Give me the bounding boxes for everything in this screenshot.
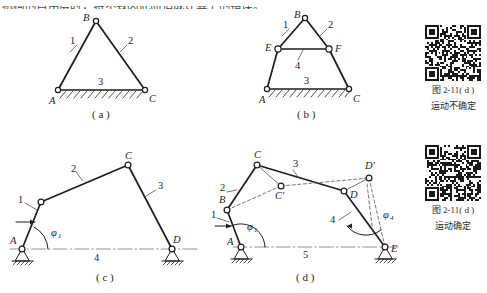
figure-c-leader-1 <box>25 203 37 210</box>
figure-d-joint-A <box>238 244 244 250</box>
figure-c-angle-arc <box>34 227 48 249</box>
figure-a-joint-B <box>93 18 98 23</box>
figure-a-link-2 <box>96 21 145 90</box>
figure-d-joint-Cprime <box>278 183 284 189</box>
figure-d-joint-E <box>382 244 388 250</box>
figure-c-joint-D <box>169 246 175 252</box>
figure-b-leader-2 <box>320 29 327 36</box>
figure-b-leader-1 <box>282 29 289 36</box>
figure-d-number-4: 4 <box>330 214 336 225</box>
figure-b-number-3: 3 <box>304 75 309 86</box>
figure-c-number-2: 2 <box>71 163 76 174</box>
figure-d-label-A: A <box>226 236 234 247</box>
svg-text:φ: φ <box>51 227 57 238</box>
figure-a-leader-1 <box>70 45 77 52</box>
figure-b-label-F: F <box>334 43 342 54</box>
figure-a-label-C: C <box>149 93 157 104</box>
figure-d-joint-D <box>341 188 347 194</box>
figure-a-joint-A <box>55 87 60 92</box>
qr-code-top[interactable] <box>425 25 481 81</box>
figure-a-ground-hatch <box>60 91 143 98</box>
figure-c-label-D: D <box>172 234 181 245</box>
figure-d-joint-C <box>254 162 260 168</box>
figure-c-link-2 <box>41 165 128 202</box>
figure-b-leader-4 <box>298 50 303 60</box>
figure-b-number-4: 4 <box>295 60 301 71</box>
figure-b-joint-F <box>326 46 332 52</box>
page-top-text: 机构的自由度时，将不致因此而造成计算上的错误。 <box>2 0 482 9</box>
figure-d-link-3 <box>257 165 344 191</box>
figure-d-leader-2 <box>227 190 237 192</box>
figure-a-label-B: B <box>83 12 90 23</box>
figure-d-number-3: 3 <box>293 158 298 169</box>
svg-text:1: 1 <box>58 232 61 239</box>
figure-c-leader-3 <box>146 190 156 196</box>
figure-c-link-1 <box>22 202 41 249</box>
figure-c: A C D 1 2 3 4 φ 1 <box>8 148 208 263</box>
figure-b-number-2: 2 <box>328 19 333 30</box>
svg-text:4: 4 <box>390 214 394 221</box>
figure-d-number-5: 5 <box>303 249 308 260</box>
figure-d-leader-1 <box>217 218 229 222</box>
figure-d-joint-B <box>224 207 230 213</box>
figure-c-caption: ( c ) <box>96 271 114 283</box>
figure-c-angle-label-phi1: φ 1 <box>51 227 61 239</box>
figure-d: A B C C' D D' E 1 2 3 4 5 φ 1 φ 4 <box>215 148 405 263</box>
figure-c-number-4: 4 <box>94 252 100 263</box>
figure-d-angle-label-phi1: φ 1 <box>247 221 257 233</box>
figure-b: B E F A C 1 2 3 4 <box>240 10 390 105</box>
figure-d-label-E: E <box>390 243 398 254</box>
figure-a-number-1: 1 <box>70 35 75 46</box>
figure-a-number-2: 2 <box>128 35 133 46</box>
figure-c-leader-2 <box>76 172 83 181</box>
qr-bottom-note: 运动确定 <box>410 219 487 232</box>
figure-b-joint-E <box>275 46 281 52</box>
figure-c-number-1: 1 <box>18 194 23 205</box>
qr-top-figure-ref: 图 2-11( d ) <box>410 83 487 96</box>
figure-c-joint-B <box>38 199 44 205</box>
figure-a-caption: ( a ) <box>92 108 110 120</box>
figure-d-label-C: C <box>254 149 262 160</box>
figure-b-joint-B <box>302 15 307 20</box>
figure-d-number-1: 1 <box>211 209 216 220</box>
figure-d-label-Dprime: D' <box>364 160 376 171</box>
figure-a-label-A: A <box>48 95 56 106</box>
qr-panel-top[interactable]: 图 2-11( d ) 运动不确定 <box>410 25 487 112</box>
figure-d-caption: ( d ) <box>296 271 314 283</box>
svg-text:φ: φ <box>247 221 253 232</box>
figure-d-label-D: D <box>349 189 358 200</box>
figure-b-joint-C <box>346 86 351 91</box>
figure-d-angle-label-phi4: φ 4 <box>383 209 394 221</box>
figure-d-leader-4 <box>339 212 351 220</box>
figure-a-leader-2 <box>120 45 127 52</box>
qr-code-bottom[interactable] <box>425 145 481 201</box>
figure-b-label-C: C <box>353 93 361 104</box>
figure-d-drive-arrow <box>215 224 231 229</box>
qr-bottom-figure-ref: 图 2-11( d ) <box>410 203 487 216</box>
figure-b-label-B: B <box>294 9 301 20</box>
svg-text:1: 1 <box>254 226 257 233</box>
figure-b-label-E: E <box>264 42 272 53</box>
figure-b-caption: ( b ) <box>297 108 315 120</box>
figure-d-label-Cprime: C' <box>275 190 285 201</box>
svg-text:φ: φ <box>383 209 389 220</box>
figure-c-link-3 <box>128 165 172 249</box>
figure-b-number-1: 1 <box>283 19 288 30</box>
figure-b-ground-hatch <box>269 90 351 97</box>
figure-a-link-1 <box>58 21 96 90</box>
figure-d-number-2: 2 <box>220 182 225 193</box>
figure-c-joint-A <box>19 246 25 252</box>
figure-d-joint-Dprime <box>366 175 372 181</box>
figure-b-label-A: A <box>258 94 266 105</box>
figure-c-joint-C <box>125 162 131 168</box>
figure-c-number-3: 3 <box>158 180 163 191</box>
figure-b-joint-A <box>264 86 269 91</box>
figure-page: 机构的自由度时，将不致因此而造成计算上的错误。 <box>0 0 487 293</box>
figure-a-joint-C <box>142 87 147 92</box>
qr-panel-bottom[interactable]: 图 2-11( d ) 运动确定 <box>410 145 487 232</box>
figure-c-label-A: A <box>9 235 17 246</box>
figure-a-number-3: 3 <box>98 76 103 87</box>
figure-d-label-B: B <box>219 194 226 205</box>
figure-a: B A C 1 2 3 <box>30 10 180 105</box>
figure-c-label-C: C <box>125 150 133 161</box>
